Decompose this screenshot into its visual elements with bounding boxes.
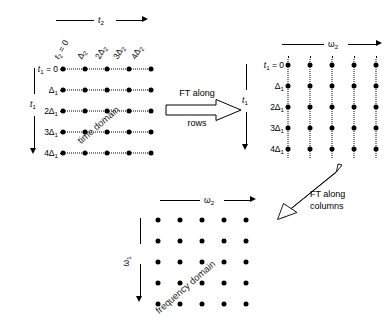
grid1-dot xyxy=(83,88,88,93)
grid2-dot xyxy=(330,105,335,110)
axis-omega1-panel3 xyxy=(134,218,146,302)
grid1-dot xyxy=(149,109,154,114)
axis-t1p2-shaft-bottom xyxy=(246,112,247,144)
grid1-dot xyxy=(61,67,66,72)
grid2-dot xyxy=(286,126,291,131)
grid1-dot xyxy=(61,151,66,156)
grid2-dot xyxy=(374,63,379,68)
axis-t2-shaft-right xyxy=(116,20,142,21)
grid2-dot xyxy=(352,126,357,131)
grid1-dot xyxy=(149,67,154,72)
axis-t2-label: t2 xyxy=(98,14,104,27)
grid2-dot xyxy=(374,84,379,89)
grid1-dot xyxy=(127,109,132,114)
axis-omega2p3-arrowhead xyxy=(250,196,256,202)
grid3-dot xyxy=(156,281,161,286)
axis-omega1-arrowhead xyxy=(136,296,142,302)
axis-omega2-panel2: ω2 xyxy=(282,38,384,50)
row-label-p2-d1-2: 2Δ1 xyxy=(250,103,284,112)
row-label-t1-0: t1 = 0 xyxy=(0,65,58,74)
grid2-dot xyxy=(330,63,335,68)
grid1-dot xyxy=(127,67,132,72)
panel-mixed-domain: ω2 t1 t1 = 0 Δ1 2Δ1 3Δ1 4Δ1 xyxy=(240,30,391,170)
grid2-dot xyxy=(352,84,357,89)
axis-t1p2-arrowhead xyxy=(242,144,248,150)
grid3-dot xyxy=(200,239,205,244)
grid2-dot xyxy=(308,126,313,131)
grid3-dot xyxy=(200,218,205,223)
column-label-d2-1: Δ2 xyxy=(76,48,88,60)
panel-time-domain: t2 t2 = 0 Δ2 2Δ2 3Δ2 4Δ2 t1 t1 = 0 xyxy=(0,0,200,170)
grid1-dot xyxy=(105,67,110,72)
grid3-dot xyxy=(222,260,227,265)
grid1-dot xyxy=(61,88,66,93)
grid3-dot xyxy=(244,260,249,265)
grid2-dot xyxy=(352,63,357,68)
row-label-d1-4: 4Δ1 xyxy=(0,149,58,158)
grid3-dot xyxy=(200,281,205,286)
grid1-dot xyxy=(105,88,110,93)
grid3-dot xyxy=(200,302,205,307)
column-label-d2-2: 2Δ2 xyxy=(94,44,108,60)
grid2-dot xyxy=(286,105,291,110)
column-label-d2-3: 3Δ2 xyxy=(112,44,126,60)
grid3-dot xyxy=(244,281,249,286)
column-label-t2-0: t2 = 0 xyxy=(53,39,70,61)
grid3-dot xyxy=(178,239,183,244)
grid2-dot xyxy=(330,126,335,131)
row-label-p2-d1-1: Δ1 xyxy=(250,82,284,91)
row-label-d1-1: Δ1 xyxy=(0,86,58,95)
grid3-dot xyxy=(178,218,183,223)
grid2-dot xyxy=(286,147,291,152)
ft-along-rows-label-line2: rows xyxy=(172,119,222,128)
axis-omega1-shaft-top xyxy=(140,218,141,244)
axis-t1-panel2-label: t1 xyxy=(242,96,248,105)
grid2-dot xyxy=(374,147,379,152)
grid2-dot xyxy=(308,105,313,110)
grid2-dot xyxy=(330,147,335,152)
axis-omega2-shaft-right xyxy=(348,44,376,45)
axis-t2: t2 xyxy=(56,14,148,26)
row-label-d1-2: 2Δ1 xyxy=(0,107,58,116)
grid1-dot xyxy=(149,151,154,156)
grid1-dot xyxy=(149,88,154,93)
grid1-dot xyxy=(105,151,110,156)
grid1-dot xyxy=(149,130,154,135)
axis-t2-shaft-left xyxy=(56,20,94,21)
ft-along-columns-label-line2: columns xyxy=(310,201,344,212)
row-label-p2-t1-0: t1 = 0 xyxy=(250,61,284,70)
axis-omega1-shaft-bottom xyxy=(140,264,141,296)
grid3-dot xyxy=(156,260,161,265)
grid3-dot xyxy=(244,302,249,307)
grid1-dot xyxy=(105,130,110,135)
grid2-dot xyxy=(374,105,379,110)
row-label-p2-d1-4: 4Δ1 xyxy=(250,145,284,154)
grid3-dot xyxy=(178,260,183,265)
grid3-dot xyxy=(222,302,227,307)
row-label-p2-d1-3: 3Δ1 xyxy=(250,124,284,133)
grid2-dot xyxy=(352,105,357,110)
axis-omega2-panel3-label: ω2 xyxy=(204,194,214,207)
grid3-dot xyxy=(156,218,161,223)
column-label-d2-4: 4Δ2 xyxy=(130,44,144,60)
grid2-dot xyxy=(374,126,379,131)
grid2-dot xyxy=(330,84,335,89)
panel-frequency-domain: ω2 ω1 xyxy=(120,190,300,326)
grid3-dot xyxy=(244,218,249,223)
axis-omega2p3-shaft-right xyxy=(224,200,250,201)
axis-omega2-arrowhead xyxy=(376,40,382,46)
axis-omega2p3-shaft-left xyxy=(160,200,200,201)
row-label-d1-3: 3Δ1 xyxy=(0,128,58,137)
grid3-dot xyxy=(178,302,183,307)
grid1-dot xyxy=(61,130,66,135)
grid3-dot xyxy=(222,281,227,286)
axis-omega2-panel3: ω2 xyxy=(160,194,260,206)
caption-frequency-domain: frequency domain xyxy=(154,259,217,316)
grid2-dot xyxy=(308,84,313,89)
grid1-dot xyxy=(127,151,132,156)
grid2-dot xyxy=(286,63,291,68)
grid1-dot xyxy=(127,88,132,93)
ft-along-columns-label-line1: FT along xyxy=(310,189,345,200)
grid1-dot xyxy=(83,151,88,156)
grid1-dot xyxy=(83,109,88,114)
